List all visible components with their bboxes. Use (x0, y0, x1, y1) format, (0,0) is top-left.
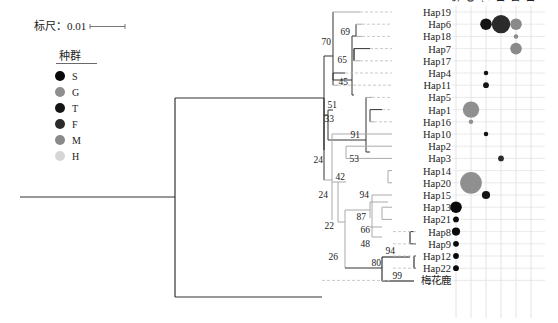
bootstrap-label: 99 (393, 271, 403, 281)
tip-label: Hap14 (423, 166, 452, 177)
legend-label-f: F (72, 119, 78, 130)
abundance-bubble (453, 241, 459, 247)
bootstrap-label: 87 (357, 212, 367, 222)
legend-label-h: H (72, 151, 79, 162)
scale-bar: 标尺：0.01 (34, 19, 125, 32)
column-label-f: F (495, 0, 506, 2)
tip-label: Hap15 (423, 190, 451, 201)
tip-label: Hap16 (423, 117, 451, 128)
column-label-g: G (465, 0, 476, 2)
tree: Hap19Hap6Hap18Hap7Hap17Hap4Hap11Hap5Hap1… (20, 7, 452, 297)
legend-swatch-f (55, 119, 65, 129)
legend-swatch-s (55, 71, 65, 81)
legend-title: 种群 (59, 49, 81, 62)
bootstrap-label: 48 (361, 239, 371, 249)
tip-label: Hap6 (428, 19, 451, 30)
column-label-t: T (480, 0, 491, 2)
bootstrap-label: 69 (341, 27, 351, 37)
bootstrap-label: 42 (336, 172, 346, 182)
abundance-bubble (460, 172, 482, 194)
legend-label-s: S (72, 71, 78, 82)
tip-label: 梅花鹿 (421, 274, 452, 286)
tip-label: Hap10 (423, 129, 451, 140)
bootstrap-label: 33 (325, 114, 335, 124)
tip-label: Hap18 (423, 31, 451, 42)
tip-label: Hap13 (423, 202, 451, 213)
bootstrap-label: 51 (328, 100, 338, 110)
abundance-bubble (484, 71, 488, 75)
bootstrap-label: 26 (329, 252, 339, 262)
scale-label: 标尺：0.01 (34, 19, 86, 32)
abundance-bubble (498, 156, 504, 162)
tip-label: Hap8 (428, 227, 451, 238)
bootstrap-label: 66 (361, 225, 371, 235)
column-label-h: H (525, 0, 536, 2)
tip-label: Hap21 (423, 214, 451, 225)
legend: 种群 SGTFMH (55, 49, 97, 162)
legend-swatch-m (55, 135, 65, 145)
bootstrap-label: 94 (386, 246, 396, 256)
tip-label: Hap2 (428, 141, 451, 152)
abundance-bubble (514, 34, 518, 38)
bootstrap-label: 65 (338, 55, 348, 65)
legend-label-m: M (72, 135, 81, 146)
abundance-bubble (482, 191, 490, 199)
tip-label: Hap19 (423, 7, 451, 18)
tip-label: Hap3 (428, 153, 451, 164)
tip-label: Hap12 (423, 251, 451, 262)
tip-label: Hap5 (428, 92, 451, 103)
abundance-bubble (463, 101, 479, 117)
bootstrap-label: 45 (339, 77, 349, 87)
tip-label: Hap20 (423, 178, 451, 189)
abundance-bubble (510, 18, 522, 30)
legend-label-t: T (72, 103, 78, 114)
bootstrap-label: 22 (325, 221, 335, 231)
bootstrap-label: 53 (350, 154, 360, 164)
abundance-bubble (480, 18, 492, 30)
legend-swatch-g (55, 87, 65, 97)
tip-label: Hap4 (428, 68, 451, 79)
abundance-bubble (484, 132, 488, 136)
legend-swatch-h (55, 151, 65, 161)
bootstrap-label: 24 (314, 155, 324, 165)
legend-label-g: G (72, 87, 79, 98)
abundance-bubble (492, 15, 510, 33)
abundance-bubble (453, 253, 459, 259)
abundance-bubble (452, 228, 460, 236)
phylogenetic-tree-figure: 标尺：0.01 种群 SGTFMH Hap19Hap6Hap18Hap7Hap1… (0, 0, 558, 323)
bootstrap-label: 94 (360, 190, 370, 200)
tip-label: Hap9 (428, 239, 451, 250)
legend-swatch-t (55, 103, 65, 113)
tip-label: Hap7 (428, 44, 451, 55)
tip-label: Hap1 (428, 105, 451, 116)
abundance-bubble (510, 43, 522, 55)
tip-label: Hap22 (423, 263, 451, 274)
abundance-grid: SGTFMH (450, 0, 545, 318)
abundance-bubble (453, 265, 459, 271)
bootstrap-label: 91 (351, 130, 361, 140)
column-label-s: S (450, 0, 461, 2)
bootstrap-label: 70 (322, 37, 332, 47)
abundance-bubble (450, 201, 462, 213)
abundance-bubble (453, 217, 459, 223)
bootstrap-label: 24 (319, 190, 329, 200)
tip-label: Hap17 (423, 56, 451, 67)
bootstrap-label: 80 (372, 258, 382, 268)
tip-label: Hap11 (423, 80, 451, 91)
abundance-bubble (469, 120, 473, 124)
column-label-m: M (510, 0, 521, 2)
abundance-bubble (483, 82, 489, 88)
